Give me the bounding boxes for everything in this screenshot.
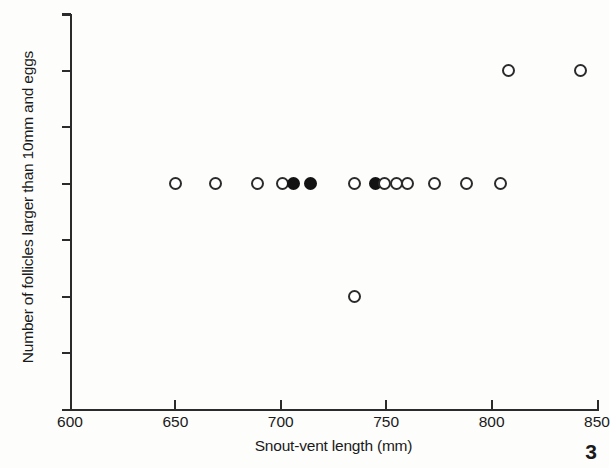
- y-axis-title: Number of follicles larger than 10mm and…: [19, 7, 37, 407]
- x-axis-line: [70, 409, 599, 411]
- data-point: [428, 177, 441, 190]
- x-axis-tick-label: 650: [145, 414, 205, 430]
- x-axis-tick: [385, 400, 387, 410]
- data-point: [304, 177, 317, 190]
- x-axis-tick-label: 800: [462, 414, 522, 430]
- data-point: [169, 177, 182, 190]
- data-point: [251, 177, 264, 190]
- y-axis-tick: [62, 239, 71, 241]
- data-point: [574, 64, 587, 77]
- y-axis-tick: [62, 352, 71, 354]
- x-axis-tick-label: 600: [40, 414, 100, 430]
- y-axis-tick: [62, 13, 71, 15]
- data-point: [460, 177, 473, 190]
- data-point: [348, 290, 361, 303]
- x-axis-tick: [174, 400, 176, 410]
- data-point: [378, 177, 391, 190]
- x-axis-tick-label: 700: [251, 414, 311, 430]
- data-point: [287, 177, 300, 190]
- data-point: [209, 177, 222, 190]
- y-axis-tick: [62, 183, 71, 185]
- data-point: [502, 64, 515, 77]
- y-axis-tick: [62, 296, 71, 298]
- data-point: [401, 177, 414, 190]
- x-axis-tick: [280, 400, 282, 410]
- x-axis-tick: [491, 400, 493, 410]
- y-axis-tick: [62, 409, 71, 411]
- x-axis-title: Snout-vent length (mm): [70, 437, 597, 455]
- page-number: 3: [585, 441, 597, 462]
- data-point: [348, 177, 361, 190]
- y-axis-tick: [62, 126, 71, 128]
- y-axis-tick: [62, 70, 71, 72]
- x-axis-tick-label: 750: [356, 414, 416, 430]
- x-axis-tick-label: 850: [567, 414, 614, 430]
- x-axis-right-cap: [597, 400, 599, 411]
- data-point: [494, 177, 507, 190]
